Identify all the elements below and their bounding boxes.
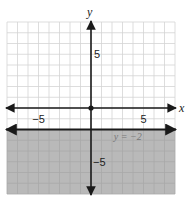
x-tick-label-neg5: −5 <box>32 113 45 125</box>
y-tick-label-pos5: 5 <box>94 48 100 60</box>
x-tick-label-pos5: 5 <box>140 113 146 125</box>
x-axis-label: x <box>178 101 185 115</box>
coordinate-graph: x y −5 5 5 −5 y = −2 <box>0 0 186 203</box>
origin-point <box>88 105 93 110</box>
y-axis-label: y <box>86 5 93 19</box>
y-tick-label-neg5: −5 <box>93 156 106 168</box>
equation-label: y = −2 <box>113 131 142 142</box>
